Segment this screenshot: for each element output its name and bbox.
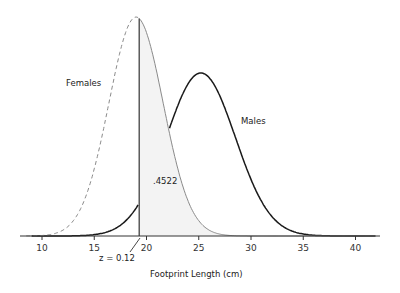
x-tick-label: 25 [193,243,204,253]
x-tick-label: 30 [245,243,256,253]
z-label: z = 0.12 [99,253,135,263]
females-curve [26,17,138,236]
x-axis-ticks [42,236,356,240]
area-label: .4522 [153,176,177,186]
x-tick-label: 40 [350,243,361,253]
males-curve [32,73,376,236]
x-tick-label: 10 [36,243,47,253]
x-axis-title: Footprint Length (cm) [150,269,243,279]
females-label: Females [66,78,101,88]
x-tick-label: 20 [141,243,152,253]
z-pointer [130,238,140,252]
shaded-area [139,19,376,237]
males-label: Males [241,116,266,126]
x-tick-label: 15 [89,243,100,253]
x-tick-label: 35 [298,243,309,253]
